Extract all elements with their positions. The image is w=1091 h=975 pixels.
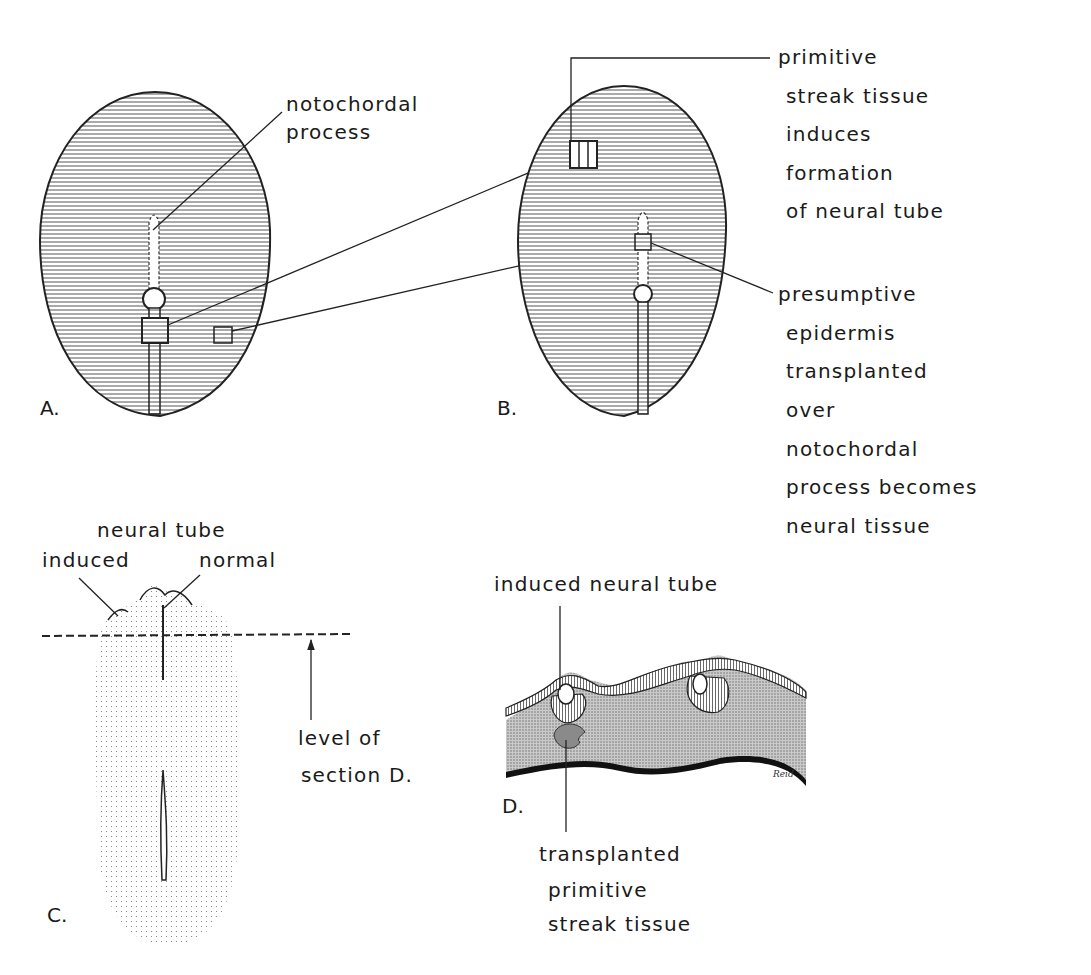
neural-tissue-label: neural tissue <box>786 516 931 536</box>
primitive-label-d: primitive <box>548 880 648 900</box>
panel-label-d: D. <box>502 794 524 818</box>
process-becomes-label: process becomes <box>786 477 978 497</box>
panel-label-b: B. <box>497 396 517 420</box>
panel-label-a: A. <box>40 396 60 420</box>
transplanted-label-d: transplanted <box>539 844 681 864</box>
notochordal-process-label: notochordal process <box>286 90 426 146</box>
notochordal-label: notochordal <box>786 439 918 459</box>
over-label: over <box>786 400 835 420</box>
neural-tube-header: neural tube <box>97 520 226 540</box>
panel-d-section: Reid <box>506 606 806 832</box>
streak-tissue-label: streak tissue <box>786 86 929 106</box>
induces-label: induces <box>786 124 872 144</box>
formation-label: formation <box>786 163 894 183</box>
transplanted-label: transplanted <box>786 361 928 381</box>
panel-label-c: C. <box>47 903 67 927</box>
presumptive-label: presumptive <box>778 284 917 304</box>
epidermis-label: epidermis <box>786 323 896 343</box>
primitive-label: primitive <box>778 47 878 67</box>
induced-label: induced <box>42 550 130 570</box>
artist-signature: Reid <box>772 769 794 779</box>
panel-c-embryo <box>42 575 354 945</box>
of-neural-tube-label: of neural tube <box>786 201 944 221</box>
normal-label: normal <box>199 550 276 570</box>
induced-neural-tube-label: induced neural tube <box>494 574 718 594</box>
panel-b-embryo <box>518 58 773 416</box>
level-of-label: level of <box>298 728 381 748</box>
section-d-label: section D. <box>301 765 413 785</box>
streak-tissue-label-d: streak tissue <box>548 914 691 934</box>
